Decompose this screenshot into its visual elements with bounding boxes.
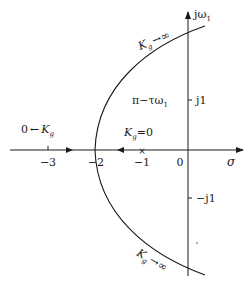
svg-text:Kg→∞: Kg→∞ bbox=[133, 246, 170, 276]
real-axis-arrow-right bbox=[66, 147, 73, 153]
left-real-label: 0←Kg bbox=[21, 123, 54, 138]
pole-marker: × bbox=[138, 146, 146, 156]
angle-label: π−τω1 bbox=[132, 94, 168, 109]
tick-label-neg3: −3 bbox=[40, 156, 56, 169]
jw-label: jω1 bbox=[192, 8, 211, 23]
root-locus-diagram: × −3 −2 −1 0 σ jω1 j1 −j1 Kg→∞ Kg→∞ π−τω… bbox=[0, 0, 251, 290]
real-axis-arrow-left bbox=[117, 147, 124, 153]
j1-label: j1 bbox=[194, 94, 206, 107]
tick-label-neg2: −2 bbox=[88, 156, 104, 169]
imag-axis-ticks bbox=[188, 100, 192, 198]
tick-label-neg1: −1 bbox=[134, 156, 150, 169]
tick-label-0: 0 bbox=[177, 156, 184, 169]
stray-dot bbox=[196, 242, 198, 244]
neg-j1-label: −j1 bbox=[196, 192, 216, 205]
lower-branch-label: Kg→∞ bbox=[133, 246, 170, 276]
sigma-label: σ bbox=[227, 155, 236, 169]
start-label: Kg=0 bbox=[123, 126, 153, 141]
